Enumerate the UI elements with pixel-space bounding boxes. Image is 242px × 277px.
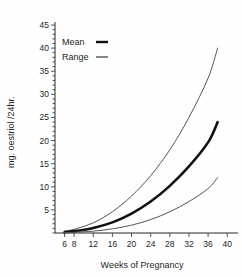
y-axis-title: mg. oestriol /24hr. — [6, 96, 16, 168]
x-axis-tick-label: 20 — [127, 239, 137, 249]
y-axis-tick-label: 30 — [40, 89, 50, 99]
x-axis-tick-label: 36 — [203, 239, 213, 249]
x-axis-tick-label: 12 — [89, 239, 99, 249]
data-series-group — [65, 48, 218, 232]
x-axis: 681216202428323640 — [55, 233, 238, 249]
oestriol-pregnancy-line-chart: 51015202530354045 681216202428323640 Mea… — [0, 0, 242, 277]
x-axis-tick-label: 16 — [108, 239, 118, 249]
x-axis-tick-label: 8 — [72, 239, 77, 249]
x-axis-tick-label: 40 — [222, 239, 232, 249]
x-axis-tick-label: 6 — [62, 239, 67, 249]
y-axis-tick-label: 25 — [40, 112, 50, 122]
chart-legend: MeanRange — [62, 37, 108, 62]
x-axis-tick-label: 24 — [146, 239, 156, 249]
y-axis-tick-label: 15 — [40, 159, 50, 169]
legend-label-range: Range — [62, 52, 89, 62]
x-axis-tick-label: 32 — [184, 239, 194, 249]
y-axis-tick-label: 35 — [40, 66, 50, 76]
x-axis-tick-label: 28 — [165, 239, 175, 249]
legend-label-mean: Mean — [62, 37, 85, 47]
chart-container: 51015202530354045 681216202428323640 Mea… — [0, 0, 242, 277]
y-axis-tick-label: 20 — [40, 136, 50, 146]
x-axis-title: Weeks of Pregnancy — [101, 260, 184, 270]
y-axis-tick-label: 40 — [40, 43, 50, 53]
y-axis-tick-label: 45 — [40, 20, 50, 30]
series-line-mean — [65, 122, 218, 232]
y-axis-tick-label: 10 — [40, 182, 50, 192]
y-axis-tick-label: 5 — [44, 205, 49, 215]
y-axis: 51015202530354045 — [40, 20, 55, 233]
series-line-range-upper — [65, 48, 218, 231]
